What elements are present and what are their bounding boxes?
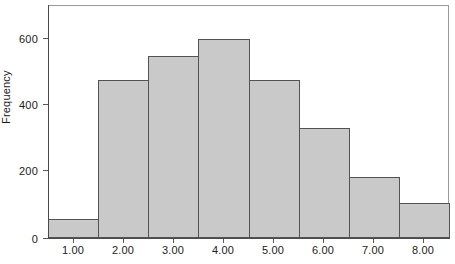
histogram-bar: [399, 203, 450, 238]
histogram-bar: [299, 128, 350, 238]
x-tick-label-3: 3.00: [150, 244, 196, 256]
y-tick-label-0: 0: [4, 233, 38, 245]
x-axis-line: [48, 238, 450, 239]
histogram-bar: [148, 56, 199, 238]
x-tick-mark-1: [73, 239, 74, 243]
histogram-bar: [349, 177, 400, 238]
y-tick-label-400: 400: [4, 99, 38, 111]
x-tick-mark-8: [423, 239, 424, 243]
clipped-bottom-caption: ............: [56, 258, 111, 264]
x-tick-mark-2: [123, 239, 124, 243]
x-tick-mark-5: [273, 239, 274, 243]
x-tick-label-5: 5.00: [250, 244, 296, 256]
x-tick-label-7: 7.00: [350, 244, 396, 256]
y-tick-label-200: 200: [4, 165, 38, 177]
x-tick-label-8: 8.00: [400, 244, 446, 256]
y-tick-label-600: 600: [4, 33, 38, 45]
x-tick-label-6: 6.00: [300, 244, 346, 256]
y-axis-line: [48, 5, 49, 239]
x-tick-label-4: 4.00: [200, 244, 246, 256]
histogram-bar: [48, 219, 99, 238]
histogram-bar: [198, 39, 249, 238]
x-tick-mark-4: [223, 239, 224, 243]
x-tick-label-2: 2.00: [100, 244, 146, 256]
histogram-bar: [249, 80, 300, 238]
x-tick-label-1: 1.00: [50, 244, 96, 256]
x-tick-mark-6: [323, 239, 324, 243]
histogram-bar: [98, 80, 149, 238]
bars-layer: [48, 5, 449, 238]
histogram-figure: Frequency 0 200 400 600 1.00 2.00 3.00 4…: [0, 0, 455, 264]
x-tick-mark-3: [173, 239, 174, 243]
x-tick-mark-7: [373, 239, 374, 243]
